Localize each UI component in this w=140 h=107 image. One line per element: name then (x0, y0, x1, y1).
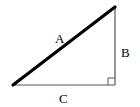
label-b: B (121, 45, 130, 60)
label-c: C (59, 91, 68, 106)
right-angle-marker (108, 78, 115, 85)
label-a: A (55, 31, 65, 46)
right-triangle-diagram: A B C (0, 0, 140, 107)
side-a-hypotenuse (13, 7, 115, 85)
